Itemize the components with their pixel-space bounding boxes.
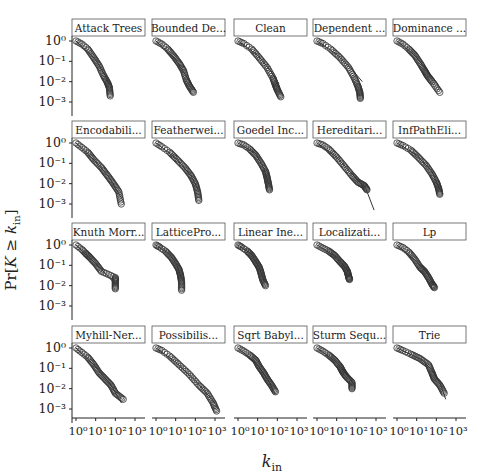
x-label-sub: in (272, 461, 283, 474)
panel-title: Trie (419, 329, 441, 341)
y-tick-label: 10⁰ (45, 237, 66, 252)
fit-line (317, 143, 374, 210)
panel-title: Bounded De... (151, 22, 226, 34)
panel-title: Dominance ... (393, 22, 466, 34)
y-label-k: k (2, 225, 20, 234)
panel-title: Knuth Morr... (73, 226, 145, 238)
x-tick-label: 10² (429, 424, 448, 438)
chart-figure: Attack Trees10⁰10⁻¹10⁻²10⁻³Bounded De...… (0, 0, 486, 476)
x-tick-label: 10¹ (329, 424, 348, 438)
panel-title: InfPathEli... (398, 124, 461, 136)
y-tick-label: 10⁻¹ (38, 155, 66, 170)
panel: Featherwei... (152, 121, 225, 204)
x-tick-label: 10² (349, 424, 368, 438)
y-axis-label: Pr[K ≥ kin] (2, 209, 22, 290)
y-tick-label: 10⁰ (45, 340, 66, 355)
panel: Knuth Morr...10⁰10⁻¹10⁻²10⁻³ (38, 223, 145, 320)
y-label-sub: in (11, 215, 22, 225)
x-tick-label: 10² (188, 424, 207, 438)
x-tick-label: 10² (108, 424, 127, 438)
x-tick-label: 10³ (448, 424, 468, 438)
panel: Clean (234, 19, 307, 100)
y-tick-label: 10⁻³ (38, 196, 66, 211)
panel-title: Lp (423, 226, 437, 238)
x-tick-label: 10³ (207, 424, 227, 438)
y-label-ge: ≥ (2, 234, 20, 256)
x-tick-label: 10¹ (250, 424, 269, 438)
panel: Dominance ... (393, 19, 466, 96)
y-tick-label: 10⁻¹ (38, 257, 66, 272)
panel: Trie10⁰10¹10²10³ (389, 326, 468, 438)
x-axis-label: kin (262, 452, 282, 474)
panel-title: Sqrt Babyl... (237, 329, 304, 341)
y-tick-label: 10⁰ (45, 135, 66, 150)
panel-title: Localizati... (319, 226, 381, 238)
panel: Linear Ine... (234, 223, 307, 289)
panel: Possibilis...10⁰10¹10²10³ (148, 326, 227, 438)
x-tick-label: 10⁰ (389, 424, 409, 438)
x-label-k: k (262, 452, 272, 471)
x-tick-label: 10¹ (168, 424, 187, 438)
panel-title: Dependent ... (314, 22, 386, 34)
panel: LatticePro... (152, 223, 225, 293)
panel: Encodabili...10⁰10⁻¹10⁻²10⁻³ (38, 121, 145, 218)
y-label-prefix: Pr[ (2, 267, 20, 290)
panel: InfPathEli... (393, 121, 466, 198)
y-tick-label: 10⁻³ (38, 401, 66, 416)
x-tick-label: 10¹ (409, 424, 428, 438)
x-tick-label: 10³ (127, 424, 147, 438)
y-tick-label: 10⁻³ (38, 94, 66, 109)
y-tick-label: 10⁻² (38, 74, 66, 89)
y-tick-label: 10⁻¹ (38, 360, 66, 375)
y-tick-label: 10⁻² (38, 278, 66, 293)
panel: Hereditari... (313, 121, 386, 210)
x-tick-label: 10⁰ (230, 424, 250, 438)
x-tick-label: 10³ (289, 424, 309, 438)
data-point (331, 151, 337, 157)
y-tick-label: 10⁻² (38, 176, 66, 191)
x-tick-label: 10² (270, 424, 289, 438)
y-tick-label: 10⁻¹ (38, 53, 66, 68)
panel-title: Hereditari... (317, 124, 383, 136)
x-tick-label: 10⁰ (68, 424, 88, 438)
panel: Sqrt Babyl...10⁰10¹10²10³ (230, 326, 309, 438)
y-tick-label: 10⁻² (38, 381, 66, 396)
chart-grid: Attack Trees10⁰10⁻¹10⁻²10⁻³Bounded De...… (0, 0, 486, 476)
panel: Sturm Sequ...10⁰10¹10²10³ (309, 326, 388, 438)
panel-title: Myhill-Ner... (75, 329, 141, 341)
panel-title: Featherwei... (154, 124, 224, 136)
x-tick-label: 10³ (368, 424, 388, 438)
panel: Dependent ... (313, 19, 386, 102)
panel: Localizati... (313, 223, 386, 283)
panel-title: Linear Ine... (238, 226, 303, 238)
panel: Goedel Inc... (234, 121, 307, 193)
panel-title: LatticePro... (156, 226, 221, 238)
panel-title: Clean (255, 22, 286, 34)
y-label-K: K (2, 256, 20, 267)
panel: Myhill-Ner...10⁰10⁻¹10⁻²10⁻³10⁰10¹10²10³ (38, 326, 147, 438)
y-tick-label: 10⁰ (45, 33, 66, 48)
x-tick-label: 10⁰ (309, 424, 329, 438)
panel-title: Attack Trees (74, 22, 143, 34)
x-tick-label: 10⁰ (148, 424, 168, 438)
panel: Bounded De... (151, 19, 226, 96)
x-tick-label: 10¹ (88, 424, 107, 438)
y-tick-label: 10⁻³ (38, 298, 66, 313)
panel: Lp (393, 223, 466, 291)
panel: Attack Trees10⁰10⁻¹10⁻²10⁻³ (38, 19, 145, 116)
panel-title: Goedel Inc... (237, 124, 304, 136)
panel-title: Possibilis... (159, 329, 218, 341)
panel-title: Encodabili... (75, 124, 141, 136)
y-label-suffix: ] (2, 209, 20, 215)
panel-title: Sturm Sequ... (313, 329, 386, 341)
